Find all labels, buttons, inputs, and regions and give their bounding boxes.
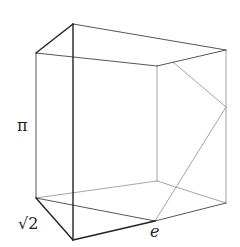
edge-e-to-right-bottom	[155, 203, 226, 221]
back-edges	[36, 50, 226, 221]
edge-cut-top-to-right	[173, 62, 226, 107]
edge-top-left-to-inner	[36, 53, 157, 66]
edge-inner-top-right	[157, 50, 226, 66]
truncated-box-diagram: π √2 e	[0, 0, 240, 247]
label-height-pi: π	[17, 116, 28, 135]
edge-top-front-to-left	[36, 24, 73, 53]
edge-inner-bottom-right	[157, 181, 226, 203]
label-cut-e: e	[150, 222, 159, 241]
edge-cut-right-to-e	[155, 107, 226, 221]
label-depth-sqrt2: √2	[18, 214, 38, 233]
edge-inner-bottom-left	[36, 181, 157, 198]
mid-edges	[36, 24, 226, 221]
edge-front-bottom-to-e	[73, 221, 155, 240]
front-edges	[36, 24, 155, 240]
edge-top-front-to-right	[73, 24, 226, 50]
